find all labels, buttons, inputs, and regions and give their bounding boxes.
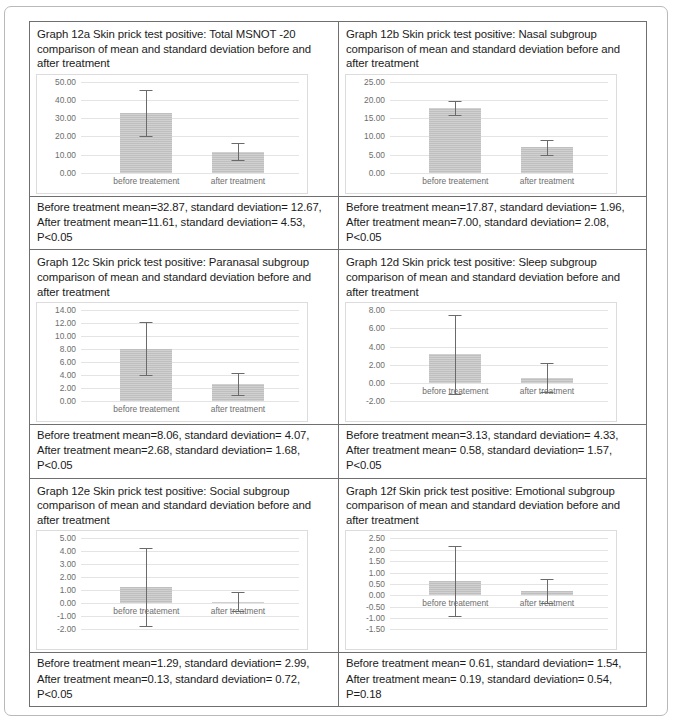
chart-area: -2.00-1.000.001.002.003.004.005.00before… (30, 530, 338, 652)
gridline (81, 118, 299, 119)
table-row: Graph 12c Skin prick test positive: Para… (30, 249, 646, 477)
figure-caption: Before treatment mean=8.06, standard dev… (30, 424, 338, 478)
y-axis-tick-label: 10.00 (55, 150, 76, 160)
gridline (390, 538, 608, 539)
y-axis-tick-label: 2.00 (60, 572, 76, 582)
error-bar-cap-bottom (231, 160, 244, 161)
y-axis-tick-label: 2.00 (369, 360, 385, 370)
figure-cell-12a: Graph 12a Skin prick test positive: Tota… (30, 22, 338, 249)
y-axis-tick-label: 5.00 (369, 150, 385, 160)
gridline (81, 82, 299, 83)
gridline (81, 375, 299, 376)
y-axis-tick-label: 10.00 (364, 131, 385, 141)
bar-chart-12b: 0.005.0010.0015.0020.0025.00before treat… (345, 74, 617, 194)
gridline (81, 310, 299, 311)
figure-title: Graph 12f Skin prick test positive: Emot… (339, 479, 646, 531)
gridline (390, 310, 608, 311)
x-axis-tick-label: after treatment (211, 606, 265, 616)
x-axis-tick-label: after treatment (211, 404, 265, 414)
bar-chart-12e: -2.00-1.000.001.002.003.004.005.00before… (36, 530, 308, 650)
gridline (390, 82, 608, 83)
gridline (81, 564, 299, 565)
x-axis-tick-label: after treatment (520, 598, 574, 608)
x-axis-tick-label: before treatement (422, 598, 488, 608)
y-axis-tick-label: 0.50 (369, 579, 385, 589)
gridline (390, 383, 608, 384)
gridline (390, 328, 608, 329)
y-axis-tick-label: 3.00 (60, 559, 76, 569)
figure-cell-12e: Graph 12e Skin prick test positive: Soci… (30, 479, 338, 706)
gridline (81, 590, 299, 591)
y-axis-tick-label: 1.50 (369, 556, 385, 566)
table-row: Graph 12a Skin prick test positive: Tota… (30, 22, 646, 249)
error-bar (146, 90, 147, 136)
gridline (81, 362, 299, 363)
gridline (81, 336, 299, 337)
error-bar-cap-top (449, 101, 462, 102)
bar-chart-12a: 0.0010.0020.0030.0040.0050.00before trea… (36, 74, 308, 194)
error-bar-cap-top (449, 546, 462, 547)
error-bar-cap-top (140, 90, 153, 91)
y-axis-tick-label: 4.00 (60, 546, 76, 556)
error-bar-cap-top (231, 592, 244, 593)
error-bar (455, 101, 456, 115)
figure-caption: Before treatment mean=1.29, standard dev… (30, 652, 338, 706)
error-bar-cap-bottom (449, 115, 462, 116)
figure-caption: Before treatment mean=32.87, standard de… (30, 196, 338, 250)
figure-cell-12f: Graph 12f Skin prick test positive: Emot… (338, 479, 646, 706)
gridline (390, 584, 608, 585)
error-bar-cap-top (140, 548, 153, 549)
gridline (81, 349, 299, 350)
gridline (390, 401, 608, 402)
bar-chart-12d: -2.000.002.004.006.008.00before treateme… (345, 302, 617, 422)
x-axis-tick-label: before treatement (113, 404, 179, 414)
y-axis-tick-label: 40.00 (55, 95, 76, 105)
y-axis-tick-label: -1.00 (366, 613, 385, 623)
bar-chart-12c: 0.002.004.006.008.0010.0012.0014.00befor… (36, 302, 308, 422)
y-axis-tick-label: 15.00 (364, 113, 385, 123)
plot-area: -2.000.002.004.006.008.00before treateme… (390, 310, 608, 401)
x-axis-tick-label: after treatment (520, 386, 574, 396)
x-axis-tick-label: before treatement (422, 176, 488, 186)
y-axis-tick-label: 14.00 (55, 305, 76, 315)
y-axis-tick-label: -1.50 (366, 624, 385, 634)
chart-area: -2.000.002.004.006.008.00before treateme… (339, 302, 646, 424)
gridline (81, 551, 299, 552)
gridline (81, 173, 299, 174)
gridline (390, 347, 608, 348)
gridline (390, 100, 608, 101)
gridline (390, 136, 608, 137)
y-axis-tick-label: -2.00 (57, 624, 76, 634)
error-bar-cap-top (140, 322, 153, 323)
y-axis-tick-label: 2.00 (60, 383, 76, 393)
gridline (81, 323, 299, 324)
x-axis-tick-label: after treatment (520, 176, 574, 186)
y-axis-tick-label: 8.00 (60, 344, 76, 354)
y-axis-tick-label: 20.00 (55, 131, 76, 141)
gridline (390, 561, 608, 562)
error-bar-cap-top (540, 140, 553, 141)
error-bar-cap-top (231, 143, 244, 144)
error-bar (547, 140, 548, 155)
y-axis-tick-label: 0.00 (60, 598, 76, 608)
x-axis-tick-label: before treatement (422, 386, 488, 396)
y-axis-tick-label: 2.50 (369, 533, 385, 543)
error-bar (455, 315, 456, 394)
plot-area: 0.0010.0020.0030.0040.0050.00before trea… (81, 82, 299, 173)
plot-area: 0.002.004.006.008.0010.0012.0014.00befor… (81, 310, 299, 401)
gridline (81, 155, 299, 156)
gridline (81, 100, 299, 101)
figure-cell-12b: Graph 12b Skin prick test positive: Nasa… (338, 22, 646, 249)
y-axis-tick-label: 50.00 (55, 77, 76, 87)
gridline (81, 388, 299, 389)
chart-area: 0.005.0010.0015.0020.0025.00before treat… (339, 74, 646, 196)
error-bar-cap-top (449, 315, 462, 316)
y-axis-tick-label: 0.00 (369, 378, 385, 388)
document-page: Graph 12a Skin prick test positive: Tota… (4, 6, 668, 716)
figure-caption: Before treatment mean= 0.61, standard de… (339, 652, 646, 706)
plot-area: -1.50-1.00-0.500.000.501.001.502.002.50b… (390, 538, 608, 629)
y-axis-tick-label: 0.00 (60, 168, 76, 178)
y-axis-tick-label: -0.50 (366, 602, 385, 612)
error-bar-cap-bottom (140, 626, 153, 627)
chart-area: -1.50-1.00-0.500.000.501.001.502.002.50b… (339, 530, 646, 652)
